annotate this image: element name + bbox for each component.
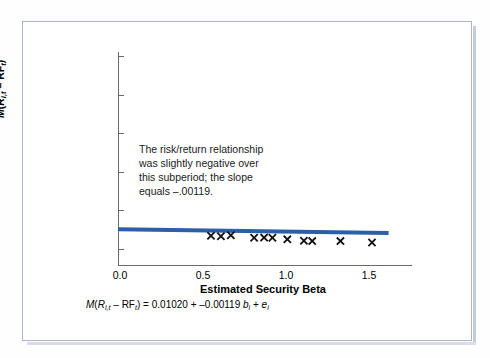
- eq-rf-sub: t: [135, 303, 137, 312]
- data-point-marker: [260, 234, 267, 241]
- eq-rf: RF: [122, 299, 135, 310]
- eq-r: R: [98, 299, 105, 310]
- eq-minus: –: [111, 299, 122, 310]
- data-point-marker: [337, 237, 344, 244]
- data-point-marker: [207, 232, 214, 239]
- eq-plus: +: [250, 299, 261, 310]
- eq-b-sub: i: [249, 303, 251, 312]
- data-point-marker: [300, 237, 307, 244]
- data-point-marker: [368, 239, 375, 246]
- regression-equation: M(Ri,t – RFt) = 0.01020 + –0.00119 bi + …: [86, 299, 269, 310]
- data-point-marker: [309, 237, 316, 244]
- data-point-marker: [284, 236, 291, 243]
- figure-root: 0.10 0.08 0.06 0.04 0.02 0.00 0.0 0.5 1.…: [0, 0, 490, 358]
- eq-rhs: = 0.01020 + –0.00119: [140, 299, 243, 310]
- data-point-marker: [217, 233, 224, 240]
- eq-r-sub: i,t: [105, 303, 111, 312]
- data-point-marker: [251, 234, 258, 241]
- data-point-marker: [269, 234, 276, 241]
- eq-e-sub: i: [267, 303, 269, 312]
- regression-line: [118, 229, 389, 233]
